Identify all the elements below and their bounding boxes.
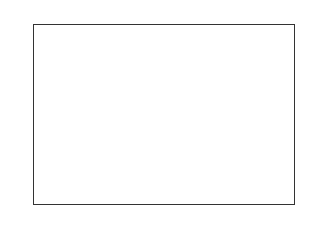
plot-area [33, 24, 295, 205]
